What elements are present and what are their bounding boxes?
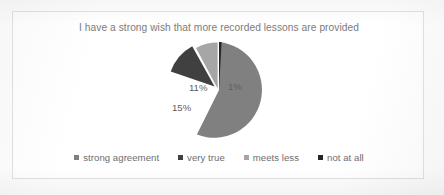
legend-label: not at all xyxy=(327,152,364,163)
chart-legend: strong agreement very true meets less no… xyxy=(13,152,425,163)
pie-svg xyxy=(159,38,279,142)
legend-label: very true xyxy=(187,152,225,163)
chart-title: I have a strong wish that more recorded … xyxy=(13,22,425,33)
data-label-meets-less: 11% xyxy=(189,82,208,93)
pie-plot-area: 11% 1% 15% 73% xyxy=(13,38,425,142)
legend-swatch-icon xyxy=(178,155,183,160)
legend-item-meets-less: meets less xyxy=(244,152,299,163)
data-label-strong-agreement: 73% xyxy=(226,138,245,149)
pie-chart xyxy=(159,38,279,142)
legend-item-not-at-all: not at all xyxy=(318,152,364,163)
chart-image-canvas: I have a strong wish that more recorded … xyxy=(0,0,444,195)
chart-frame: I have a strong wish that more recorded … xyxy=(12,11,424,179)
data-label-not-at-all: 1% xyxy=(228,81,242,92)
data-label-very-true: 15% xyxy=(172,102,191,113)
legend-swatch-icon xyxy=(244,155,249,160)
legend-label: strong agreement xyxy=(83,152,159,163)
legend-swatch-icon xyxy=(74,155,79,160)
legend-item-very-true: very true xyxy=(178,152,225,163)
legend-label: meets less xyxy=(253,152,299,163)
legend-item-strong-agreement: strong agreement xyxy=(74,152,159,163)
legend-swatch-icon xyxy=(318,155,323,160)
